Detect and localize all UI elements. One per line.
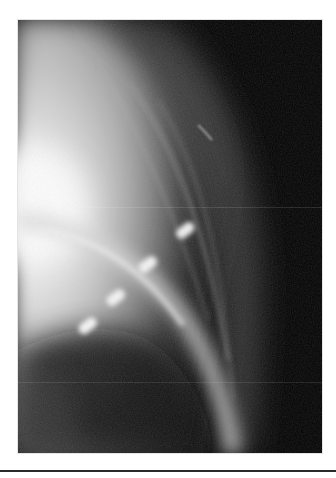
radiograph-canvas: [18, 20, 322, 453]
radiograph-image: [18, 20, 322, 453]
horizontal-divider: [0, 470, 336, 472]
